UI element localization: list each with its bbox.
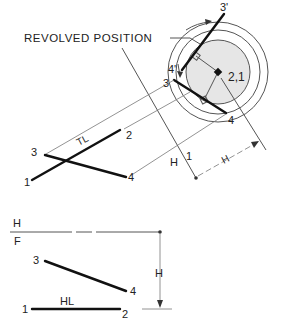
label-aux-4: 4 (228, 114, 234, 126)
label-hf-f: F (14, 235, 21, 247)
dim-front-arrowhead (157, 300, 163, 308)
label-revolved-position: REVOLVED POSITION (24, 32, 152, 44)
label-front-2: 2 (122, 308, 128, 320)
label-top-3: 3 (31, 146, 37, 158)
label-21: 2,1 (228, 70, 245, 84)
label-tl: TL (75, 132, 91, 147)
label-front-4: 4 (130, 285, 136, 297)
label-fold-1: 1 (186, 150, 192, 162)
dim-arrowhead (251, 141, 259, 148)
label-top-2: 2 (126, 129, 132, 141)
revolved-position-leader-2 (190, 38, 200, 44)
projector-4 (130, 114, 226, 176)
projector-2 (124, 92, 190, 129)
label-front-3: 3 (33, 254, 39, 266)
label-dim-h-aux: H (220, 153, 232, 166)
label-top-4: 4 (128, 171, 134, 183)
fold-point (194, 176, 198, 180)
descriptive-geometry-diagram: REVOLVED POSITION 3' 4' 2,1 3 4 3 2 1 4 … (0, 0, 284, 320)
arrowhead-left (177, 71, 183, 78)
hf-fold-point (158, 230, 162, 234)
label-front-1: 1 (22, 303, 28, 315)
label-hf-h: H (13, 217, 21, 229)
label-hl: HL (60, 295, 74, 307)
front-line-3-4 (45, 261, 126, 291)
label-3prime: 3' (220, 1, 228, 13)
projector-3 (46, 80, 174, 154)
label-top-1: 1 (24, 176, 30, 188)
label-4prime: 4' (168, 63, 176, 75)
label-dim-h-front: H (155, 267, 163, 279)
label-aux-3: 3 (163, 77, 169, 89)
label-fold-h: H (170, 156, 178, 168)
